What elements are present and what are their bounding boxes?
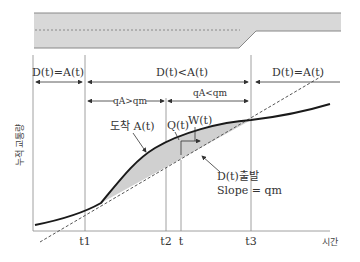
- x-axis-label: 시간: [322, 237, 338, 247]
- region-label-1: D(t)=A(t): [32, 66, 84, 79]
- region-arrows: [36, 82, 340, 101]
- tick-t: t: [179, 235, 184, 248]
- sub-region-label-2: qA<qm: [193, 88, 228, 98]
- tick-t3: t3: [245, 235, 256, 248]
- queue-label: Q(t): [167, 119, 189, 132]
- y-axis-label: 누적 교통량: [14, 124, 25, 167]
- guide-lines: [33, 55, 251, 231]
- departure-label: D(t)출발: [217, 170, 259, 183]
- queue-diagram: D(t)=A(t) D(t)<A(t) D(t)=A(t) qA>qm qA<q…: [0, 0, 360, 262]
- region-label-2: D(t)<A(t): [156, 66, 208, 79]
- arrival-label: 도착 A(t): [110, 120, 154, 133]
- tick-t2: t2: [160, 235, 171, 248]
- sub-region-label-1: qA>qm: [113, 96, 148, 106]
- slope-label: Slope = qm: [217, 184, 282, 197]
- region-label-3: D(t)=A(t): [272, 66, 324, 79]
- tick-t1: t1: [79, 235, 90, 248]
- road-bottleneck: [34, 13, 341, 48]
- wait-label: W(t): [188, 114, 212, 127]
